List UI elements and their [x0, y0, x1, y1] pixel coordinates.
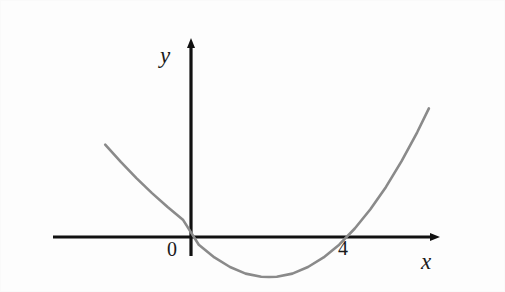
x-axis-label: x [421, 250, 431, 273]
parabola-curve [105, 108, 429, 277]
tick-label-4: 4 [338, 238, 348, 258]
tick-label-0: 0 [167, 239, 177, 259]
y-axis-label: y [160, 44, 170, 67]
parabola-figure: y x 0 4 [0, 0, 505, 292]
